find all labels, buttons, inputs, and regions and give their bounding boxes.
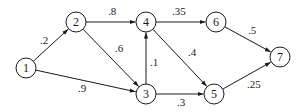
edge-weight-1-3: .9	[78, 82, 87, 94]
node-2: 2	[66, 12, 86, 32]
network-diagram: .2.9.8.6.1.3.35.4.5.25 1234567	[0, 0, 304, 112]
node-label: 2	[73, 15, 79, 29]
node-label: 6	[213, 15, 219, 29]
edge-4-5	[153, 29, 207, 86]
edge-weight-5-7: .25	[247, 78, 261, 90]
node-label: 7	[277, 50, 283, 64]
node-6: 6	[206, 12, 226, 32]
node-5: 5	[204, 84, 224, 104]
node-label: 4	[143, 15, 149, 29]
edge-weight-6-7: .5	[248, 24, 257, 36]
node-3: 3	[136, 84, 156, 104]
edge-weight-1-2: .2	[40, 34, 48, 46]
node-7: 7	[270, 47, 290, 67]
node-label: 3	[143, 87, 149, 101]
node-label: 1	[23, 61, 29, 75]
node-4: 4	[136, 12, 156, 32]
edge-1-2	[33, 29, 68, 61]
edge-weight-2-4: .8	[108, 5, 117, 17]
edge-weight-4-6: .35	[172, 5, 186, 17]
edge-weight-3-5: .3	[177, 96, 186, 108]
node-1: 1	[16, 58, 36, 78]
edge-weight-3-4: .1	[150, 56, 158, 68]
edge-weight-2-3: .6	[115, 42, 124, 54]
edge-2-3	[83, 29, 139, 86]
graph-svg: .2.9.8.6.1.3.35.4.5.25 1234567	[0, 0, 304, 112]
node-label: 5	[211, 87, 217, 101]
edge-weight-4-5: .4	[188, 46, 197, 58]
